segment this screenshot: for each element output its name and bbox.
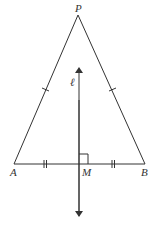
right-angle-mark [79,154,88,164]
label-m: M [81,166,92,178]
label-l: ℓ [70,76,75,88]
label-a: A [9,166,17,178]
label-p: P [74,2,82,14]
label-b: B [141,166,148,178]
triangle-diagram: P A B M ℓ [0,0,156,231]
